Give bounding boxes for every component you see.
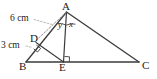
leader-6cm-dashed bbox=[34, 20, 52, 25]
segment-ac bbox=[67, 12, 140, 62]
angle-x-label: x bbox=[69, 20, 73, 29]
angle-y-label: y bbox=[58, 21, 62, 30]
measure-db-3cm: 3 cm bbox=[1, 41, 20, 51]
vertex-label-c: C bbox=[142, 60, 149, 71]
segment-de bbox=[36, 43, 64, 63]
vertex-label-b: B bbox=[19, 61, 26, 72]
segment-ae-altitude bbox=[64, 12, 67, 62]
vertex-label-a: A bbox=[62, 1, 70, 12]
leader-3cm-dashed bbox=[26, 46, 33, 48]
measure-ad-6cm: 6 cm bbox=[10, 14, 29, 24]
geometry-figure: A B C D E 6 cm 3 cm y x bbox=[0, 0, 157, 79]
vertex-label-e: E bbox=[59, 62, 66, 73]
vertex-label-d: D bbox=[30, 33, 38, 44]
